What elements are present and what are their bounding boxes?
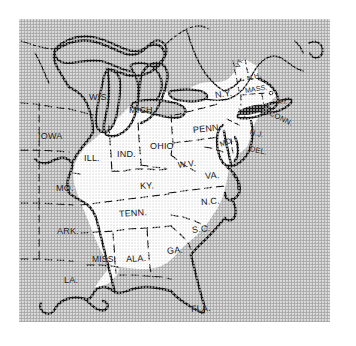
state-label-ri: R.I. <box>278 99 287 105</box>
state-label-nj: N.J. <box>249 127 265 139</box>
state-label-ala: ALA. <box>126 253 147 264</box>
state-label-la: LA. <box>64 275 78 285</box>
state-label-va: VA. <box>205 170 220 181</box>
state-label-del: DEL. <box>249 144 268 157</box>
state-label-fla: FLA. <box>191 303 211 314</box>
state-label-md: MD. <box>218 135 235 149</box>
state-label-iowa: IOWA <box>38 131 62 141</box>
state-label-penn: PENN. <box>192 122 221 135</box>
state-label-ny: N.Y. <box>214 88 232 100</box>
state-label-nc: N.C. <box>201 196 220 207</box>
state-label-ind: IND. <box>117 149 136 159</box>
map-panel: WIS.MICH.IOWAILL.IND.OHIOPENN.N.Y.VT.N.H… <box>19 19 330 322</box>
state-label-vt: VT. <box>234 57 244 69</box>
state-label-sc: S.C. <box>191 223 210 235</box>
state-label-mo: MO. <box>56 183 74 193</box>
state-label-miss: MISS. <box>92 254 116 264</box>
state-label-conn: CONN. <box>268 108 295 127</box>
state-label-ky: KY. <box>140 180 154 191</box>
state-label-ga: GA. <box>167 245 184 256</box>
state-label-mass: MASS. <box>244 83 268 93</box>
state-label-tenn: TENN. <box>119 207 148 219</box>
state-label-mich: MICH. <box>129 105 156 115</box>
state-label-wv: W.V. <box>177 158 196 170</box>
state-label-layer: WIS.MICH.IOWAILL.IND.OHIOPENN.N.Y.VT.N.H… <box>19 19 330 322</box>
map-figure: WIS.MICH.IOWAILL.IND.OHIOPENN.N.Y.VT.N.H… <box>0 0 356 346</box>
state-label-ill: ILL. <box>84 153 100 163</box>
state-label-ark: ARK. <box>57 226 79 236</box>
state-label-ohio: OHIO <box>150 141 174 151</box>
state-label-wis: WIS. <box>89 92 109 102</box>
state-label-nh: N.H. <box>246 71 262 82</box>
